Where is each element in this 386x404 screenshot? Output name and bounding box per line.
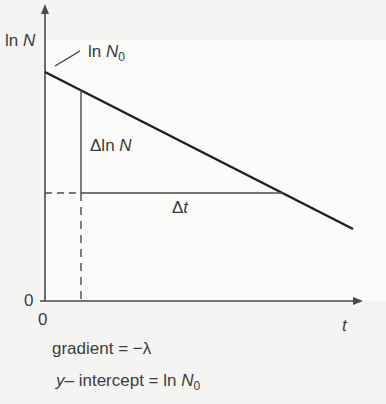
intercept-label: ln N0 [88, 42, 125, 64]
delta-ln-n-label: Δln N [90, 136, 132, 156]
y-axis-label: ln N [5, 31, 35, 51]
intercept-pointer [55, 51, 80, 66]
x-axis-arrow-icon [353, 297, 363, 305]
y-zero-tick-label: 0 [24, 291, 33, 311]
delta-t-label: Δt [172, 198, 188, 218]
y-intercept-caption: y– intercept = ln N0 [56, 371, 200, 393]
x-axis-label: t [342, 316, 347, 336]
x-zero-tick-label: 0 [38, 310, 47, 330]
gradient-caption: gradient = −λ [52, 339, 151, 359]
y-axis-arrow-icon [41, 4, 49, 14]
